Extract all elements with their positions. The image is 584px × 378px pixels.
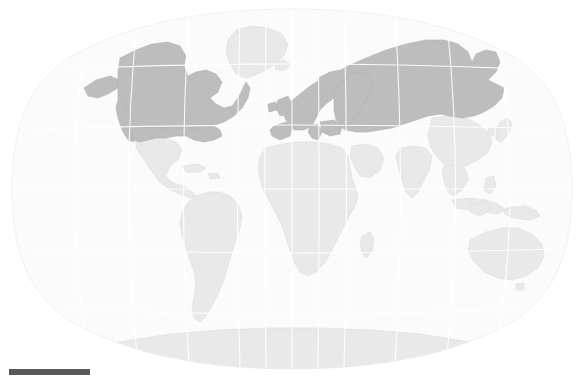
map-scale-bar [9, 369, 90, 375]
land-korea [488, 127, 494, 136]
world-map-svg[interactable] [0, 0, 584, 378]
world-map-figure [0, 0, 584, 378]
land-hispaniola [208, 173, 220, 179]
region-europe-ireland[interactable] [268, 102, 277, 112]
land-tasmania [516, 283, 524, 290]
